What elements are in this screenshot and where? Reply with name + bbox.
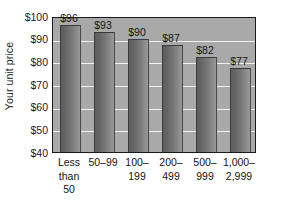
bar-chart: Your unit price $100$90$80$70$60$50$40 $… <box>0 0 289 202</box>
bar-value-label: $93 <box>86 20 120 31</box>
y-axis-tick: $80 <box>14 57 48 68</box>
x-axis-category-line: 2,999 <box>219 170 259 184</box>
y-axis-tick: $60 <box>14 102 48 113</box>
bar-value-label: $82 <box>188 45 222 56</box>
bar-value-labels: $96$93$90$87$82$77 <box>52 0 256 160</box>
x-axis-category-label: 1,000–2,999 <box>219 156 259 183</box>
y-axis-title-text: Your unit price <box>3 42 15 110</box>
x-axis-category-line: 50 <box>49 183 89 197</box>
y-axis-tick: $40 <box>14 148 48 159</box>
y-axis-tick-labels: $100$90$80$70$60$50$40 <box>16 12 50 153</box>
y-axis-tick: $90 <box>14 34 48 45</box>
x-axis-category-line: than <box>49 170 89 184</box>
y-axis-tick: $70 <box>14 80 48 91</box>
bar-value-label: $87 <box>154 33 188 44</box>
x-axis-category-line: 1,000– <box>219 156 259 170</box>
bar-value-label: $96 <box>52 13 86 24</box>
x-axis-category-labels: Lessthan5050–99100–199200–499500–9991,00… <box>52 156 256 202</box>
y-axis-tick: $100 <box>14 12 48 23</box>
y-axis-tick: $50 <box>14 125 48 136</box>
bar-value-label: $90 <box>120 27 154 38</box>
bar-value-label: $77 <box>222 56 256 67</box>
